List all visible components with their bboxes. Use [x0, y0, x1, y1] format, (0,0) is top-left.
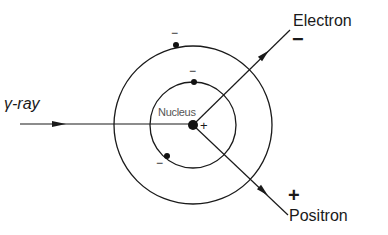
orbital-electron — [191, 79, 197, 85]
orbital-charge: − — [171, 26, 178, 40]
nucleus-charge: + — [200, 118, 208, 133]
positron-charge: + — [288, 184, 300, 207]
positron-track — [193, 125, 288, 215]
electron-charge: − — [292, 28, 304, 51]
gamma-ray-arrowhead — [52, 121, 66, 127]
gamma-ray-label: γ-ray — [4, 95, 40, 113]
orbital-electron — [164, 153, 170, 159]
nucleus-label: Nucleus — [158, 106, 196, 118]
nucleus — [188, 120, 198, 130]
orbital-electron — [173, 42, 179, 48]
electron-track — [193, 30, 290, 125]
orbital-charge: − — [156, 156, 163, 170]
positron-label: Positron — [289, 207, 348, 225]
orbital-charge: − — [189, 64, 196, 78]
